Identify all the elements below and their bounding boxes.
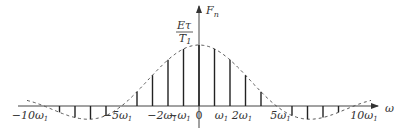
peak-label: Eτ T1 (176, 19, 193, 46)
peak-label-denominator: T1 (179, 32, 191, 46)
x-tick-label: 5ω1 (270, 109, 290, 123)
spectrum-figure: −10ω1−5ω1−2ω1−ω10ω12ω15ω110ω1 Fn ω Eτ T1 (0, 0, 396, 140)
y-axis-label: Fn (205, 4, 219, 19)
x-axis-label: ω (385, 102, 394, 115)
x-tick-label: −ω1 (168, 109, 191, 123)
x-tick-label: 0 (196, 109, 203, 122)
x-tick-label: 2ω1 (231, 109, 252, 123)
x-tick-label: ω1 (215, 109, 228, 123)
x-tick-label: −5ω1 (103, 109, 133, 123)
x-tick-label: 10ω1 (350, 109, 377, 123)
x-tick-label: −10ω1 (12, 109, 49, 123)
peak-label-numerator: Eτ (176, 19, 192, 32)
